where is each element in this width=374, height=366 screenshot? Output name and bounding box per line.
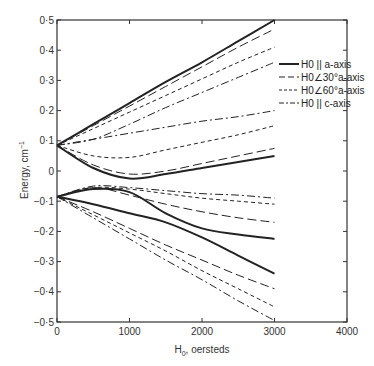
series-line <box>57 145 275 178</box>
y-tick-label: −0·1 <box>34 196 55 207</box>
series-line <box>57 47 275 145</box>
x-tick-label: 2000 <box>191 326 214 337</box>
y-tick-label: −0·4 <box>34 286 55 297</box>
y-tick-label: 0·5 <box>40 15 55 26</box>
x-tick-label: 0 <box>54 326 60 337</box>
y-tick-label: 0·2 <box>40 105 55 116</box>
series-line <box>57 20 275 145</box>
legend-label: H0∠30°a-axis <box>301 72 365 83</box>
legend-label: H0 || a-axis <box>301 59 351 70</box>
series-line <box>57 145 275 174</box>
y-tick-label: 0·4 <box>40 45 55 56</box>
series-line <box>57 197 275 289</box>
series-lines <box>57 20 275 320</box>
y-tick-label: −0·2 <box>34 226 55 237</box>
legend-label: H0 || c-axis <box>301 98 351 109</box>
y-tick-label: −0·5 <box>34 317 55 328</box>
x-tick-label: 3000 <box>263 326 286 337</box>
series-line <box>57 62 275 145</box>
series-line <box>57 189 275 239</box>
series-line <box>57 188 275 223</box>
legend-label: H0∠60°a-axis <box>301 85 365 96</box>
series-line <box>57 111 275 146</box>
x-tick-label: 1000 <box>118 326 141 337</box>
energy-vs-field-chart: 010002000300040000·50·40·30·20·10−0·1−0·… <box>0 0 374 366</box>
y-tick-label: 0 <box>48 166 54 177</box>
series-line <box>57 29 275 145</box>
y-tick-label: 0·3 <box>40 75 55 86</box>
x-axis-label: H0, oersteds <box>174 344 229 357</box>
series-line <box>57 197 275 321</box>
y-tick-label: −0·3 <box>34 256 55 267</box>
legend: H0 || a-axisH0∠30°a-axisH0∠60°a-axisH0 |… <box>279 59 365 109</box>
x-tick-label: 4000 <box>336 326 359 337</box>
y-tick-label: 0·1 <box>40 135 55 146</box>
y-axis-label: Energy, cm−1 <box>18 141 30 199</box>
